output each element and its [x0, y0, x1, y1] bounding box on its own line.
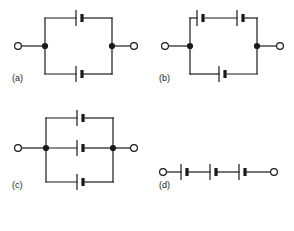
open-terminal-left — [15, 145, 22, 152]
circuit-b-drawing — [147, 0, 294, 115]
battery-cell-2 — [210, 164, 216, 180]
circuit-a-drawing — [0, 0, 147, 115]
battery-cell-bottom — [76, 66, 82, 82]
open-terminal-right — [131, 145, 138, 152]
figure-label-c: (c) — [12, 180, 23, 190]
junction-node-right — [110, 145, 116, 151]
figure-label-d: (d) — [159, 180, 170, 190]
circuit-d-drawing — [147, 110, 294, 231]
battery-cell-middle — [77, 140, 83, 156]
open-terminal-left — [15, 43, 22, 50]
open-terminal-left — [160, 169, 167, 176]
junction-node-right — [109, 43, 115, 49]
battery-cell-bottom — [219, 66, 225, 82]
battery-cell-top-right — [237, 10, 243, 26]
battery-cell-bottom — [77, 174, 83, 190]
open-terminal-right — [271, 169, 278, 176]
battery-cell-1 — [181, 164, 187, 180]
junction-node-right — [254, 43, 260, 49]
circuit-diagram-figure: (a) — [0, 0, 294, 231]
junction-node-left — [42, 43, 48, 49]
figure-label-b: (b) — [159, 73, 170, 83]
circuit-c-drawing — [0, 110, 147, 231]
battery-cell-top-left — [197, 10, 203, 26]
battery-cell-top — [76, 10, 82, 26]
junction-node-left — [187, 43, 193, 49]
battery-cell-3 — [239, 164, 245, 180]
circuit-panel-a — [0, 0, 147, 115]
open-terminal-left — [162, 43, 169, 50]
circuit-panel-d — [147, 110, 294, 231]
open-terminal-right — [277, 43, 284, 50]
open-terminal-right — [131, 43, 138, 50]
circuit-panel-b — [147, 0, 294, 115]
battery-cell-top — [77, 110, 83, 126]
junction-node-left — [43, 145, 49, 151]
figure-label-a: (a) — [12, 73, 23, 83]
circuit-panel-c — [0, 110, 147, 231]
